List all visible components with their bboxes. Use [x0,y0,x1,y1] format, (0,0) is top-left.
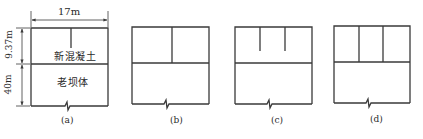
break-line [334,99,410,107]
lower-height-dimension-label: 40m [4,73,13,97]
caption-d: (d) [370,114,383,124]
caption-c: (c) [271,115,283,125]
block-outline [132,27,209,104]
panel-c [235,27,312,108]
width-dimension-label: 17m [58,7,80,17]
break-line [31,102,108,110]
new-concrete-label: 新混凝土 [54,51,96,62]
upper-height-dimension-label: 9.37m [5,30,14,60]
break-line [235,100,312,108]
caption-a: (a) [61,115,73,125]
block-outline [334,26,410,103]
caption-b: (b) [170,115,183,125]
old-dam-label: 老坝体 [57,77,89,88]
block-outline [235,27,312,104]
panel-d [334,26,410,107]
break-line [132,100,209,108]
block-outline [31,28,108,106]
panel-b [132,27,209,108]
